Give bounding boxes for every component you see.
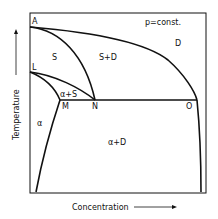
region-alpha-D: α+D bbox=[108, 138, 126, 147]
point-M: M bbox=[62, 102, 69, 111]
curve-M-bottom bbox=[36, 100, 60, 192]
curve-O-bottom bbox=[197, 100, 201, 192]
pressure-label: p=const. bbox=[145, 18, 181, 27]
region-S: S bbox=[52, 53, 57, 62]
x-arrow-head bbox=[172, 205, 177, 209]
region-D: D bbox=[175, 39, 181, 48]
curve-L-M bbox=[30, 72, 60, 100]
x-axis-label: Concentration bbox=[72, 203, 129, 212]
y-arrow-head bbox=[14, 29, 18, 34]
point-L: L bbox=[32, 63, 37, 72]
region-alpha: α bbox=[37, 119, 42, 128]
y-axis-label: Temperature bbox=[12, 89, 21, 141]
phase-diagram: A p=const. D S S+D L α+S M N O α α+D Con… bbox=[0, 0, 218, 219]
region-alpha-S: α+S bbox=[60, 90, 77, 99]
point-N: N bbox=[92, 102, 98, 111]
point-O: O bbox=[186, 102, 192, 111]
point-A: A bbox=[32, 17, 38, 26]
region-S-D: S+D bbox=[99, 53, 117, 62]
curve-A-O bbox=[30, 27, 197, 100]
